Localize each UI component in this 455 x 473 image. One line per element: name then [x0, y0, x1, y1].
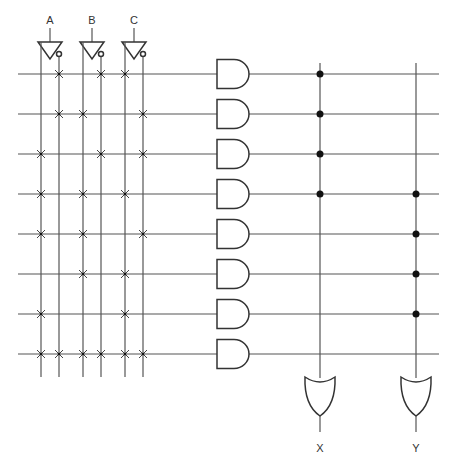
inverter-bubble [57, 52, 62, 57]
inverter-bubble [141, 52, 146, 57]
or-plane-outputs: XY [305, 63, 431, 454]
product-term-4 [18, 180, 439, 209]
or-connection-dot [317, 71, 324, 78]
input-label: A [46, 14, 54, 26]
product-term-1 [18, 60, 439, 89]
output-label: Y [412, 442, 420, 454]
and-gate [217, 220, 249, 249]
and-gate [217, 60, 249, 89]
or-connection-dot [413, 191, 420, 198]
product-term-8 [18, 340, 439, 369]
and-gate [217, 300, 249, 329]
or-gate [305, 377, 335, 416]
or-connection-dot [413, 311, 420, 318]
output-label: X [316, 442, 324, 454]
product-term-5 [18, 220, 439, 249]
and-gate [217, 340, 249, 369]
or-gate [401, 377, 431, 416]
product-term-2 [18, 100, 439, 129]
pla-diagram: ABC XY [0, 0, 455, 473]
or-connection-dot [317, 191, 324, 198]
product-term-6 [18, 260, 439, 289]
and-gate [217, 100, 249, 129]
and-gate [217, 260, 249, 289]
or-connection-dot [413, 271, 420, 278]
product-term-7 [18, 300, 439, 329]
inverter-bubble [99, 52, 104, 57]
output-y: Y [401, 63, 431, 454]
or-connection-dot [413, 231, 420, 238]
input-lines [41, 42, 143, 377]
output-x: X [305, 63, 335, 454]
or-connection-dot [317, 111, 324, 118]
product-term-3 [18, 140, 439, 169]
input-inverters: ABC [38, 14, 146, 59]
product-term-rows [18, 60, 439, 369]
input-label: B [88, 14, 95, 26]
and-gate [217, 180, 249, 209]
and-gate [217, 140, 249, 169]
or-connection-dot [317, 151, 324, 158]
input-label: C [130, 14, 138, 26]
